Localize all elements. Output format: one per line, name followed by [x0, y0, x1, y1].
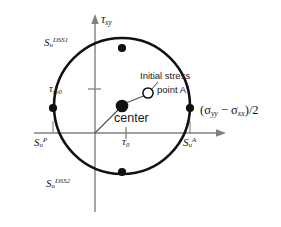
label-su-dss2: SuDSS2	[46, 177, 70, 190]
tau-xy-subscript: xy	[105, 18, 112, 27]
su-dss1-superscript: DSS1	[53, 36, 68, 43]
sigma-close-paren-over-two: )/2	[245, 103, 259, 117]
tau-xy0-subscript: xy0	[53, 88, 62, 95]
horizontal-axis-arrowhead	[216, 129, 226, 136]
annotation-center: center	[114, 112, 149, 125]
annotation-point-a: point A	[157, 85, 186, 95]
label-su-p: SuP	[34, 136, 47, 149]
marker-su-p	[49, 104, 57, 112]
sigma-open-paren: (σ	[200, 103, 211, 117]
label-su-dss1: SuDSS1	[44, 36, 68, 49]
horizontal-axis-label: (σyy − σxx)/2	[200, 104, 259, 118]
su-p-superscript: P	[43, 136, 47, 143]
sigma-minus-operator: − σ	[218, 103, 238, 117]
marker-su-dss2	[118, 168, 126, 176]
annotation-initial-stress: Initial stress	[140, 71, 190, 81]
tau-0-subscript: 0	[126, 141, 129, 148]
mohr-circle-figure: τxy (σyy − σxx)/2 SuDSS1 SuDSS2 SuP SuA …	[0, 0, 281, 227]
marker-su-a	[186, 104, 194, 112]
su-a-superscript: A	[192, 136, 196, 143]
su-dss2-superscript: DSS2	[55, 177, 70, 184]
vertical-axis-label: τxy	[101, 13, 112, 27]
marker-su-dss1	[118, 44, 126, 52]
label-tau-0: τ0	[122, 136, 129, 148]
sigma-yy-subscript: yy	[211, 109, 218, 118]
sigma-xx-subscript: xx	[238, 109, 245, 118]
vertical-axis-arrowhead	[91, 14, 98, 24]
label-tau-xy0: τxy0	[49, 83, 62, 96]
leader-line-point-a	[126, 95, 146, 103]
marker-initial-stress-point-a	[143, 88, 153, 98]
label-su-a: SuA	[183, 136, 196, 149]
